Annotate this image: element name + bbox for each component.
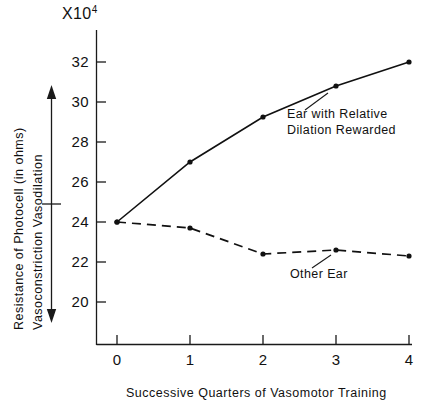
x-axis-title: Successive Quarters of Vasomotor Trainin… <box>126 386 387 400</box>
y-tick-label-20: 20 <box>59 293 89 310</box>
series-line-other-ear <box>117 222 409 256</box>
series-markers-dilation <box>114 59 411 224</box>
chart-figure: X104 32 30 28 26 24 22 20 0 1 2 3 4 Succ… <box>0 0 421 409</box>
y-axis-multiplier-base: X10 <box>62 5 92 22</box>
y-tick-label-26: 26 <box>59 173 89 190</box>
y-axis-multiplier-exponent: 4 <box>92 4 98 15</box>
series-line-dilation <box>117 62 409 222</box>
y-axis-title: Resistance of Photocell (in ohms) <box>12 127 26 330</box>
y-tick-label-24: 24 <box>59 213 89 230</box>
x-tick-label-4: 4 <box>397 351 421 368</box>
x-tick-marks <box>117 335 409 345</box>
x-tick-label-1: 1 <box>178 351 202 368</box>
y-tick-label-32: 32 <box>59 53 89 70</box>
annotation-other-ear-line-1: Other Ear <box>290 266 348 282</box>
annotation-dilation-rewarded: Ear with Relative Dilation Rewarded <box>287 106 396 138</box>
x-tick-label-3: 3 <box>324 351 348 368</box>
x-tick-label-0: 0 <box>105 351 129 368</box>
y-tick-label-22: 22 <box>59 253 89 270</box>
x-tick-label-2: 2 <box>251 351 275 368</box>
y-tick-label-28: 28 <box>59 133 89 150</box>
y-tick-label-30: 30 <box>59 93 89 110</box>
y-axis-title-secondary: Vasoconstriction Vasodilation <box>31 154 45 330</box>
annotation-dilation-line-1: Ear with Relative <box>287 106 396 122</box>
series-markers-other-ear <box>114 219 411 258</box>
y-axis-multiplier: X104 <box>62 4 98 23</box>
annotation-dilation-line-2: Dilation Rewarded <box>287 122 396 138</box>
annotation-other-ear: Other Ear <box>290 266 348 282</box>
y-tick-marks <box>97 62 107 302</box>
